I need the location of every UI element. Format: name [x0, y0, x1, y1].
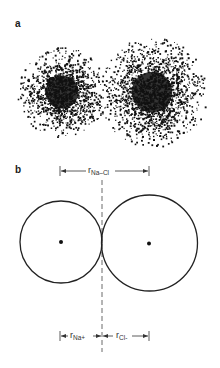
- distance-na-cl-label: rNa–Cl: [86, 165, 111, 178]
- radius-cl-subscript: Cl-: [119, 334, 127, 341]
- distance-subscript: Na–Cl: [91, 169, 109, 176]
- ionic-radius-figure: a b: [0, 0, 220, 368]
- cl-nucleus-dot: [147, 242, 151, 246]
- radius-na-subscript: Na+: [73, 334, 85, 341]
- na-nucleus-dot: [59, 240, 63, 244]
- diagram-canvas: [0, 0, 220, 368]
- radius-cl-label: rCl-: [114, 330, 129, 343]
- na-electron-cloud: [18, 47, 108, 138]
- cl-electron-cloud: [98, 39, 207, 148]
- radius-na-label: rNa+: [68, 330, 87, 343]
- electron-density-clouds: [18, 39, 207, 148]
